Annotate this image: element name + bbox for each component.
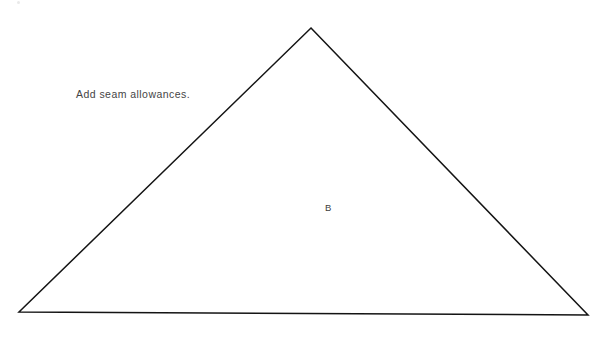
seam-allowance-instruction: Add seam allowances. [76, 88, 190, 100]
pattern-drawing [0, 0, 610, 338]
triangle-outline [19, 28, 588, 315]
pattern-piece-label: B [325, 202, 332, 213]
pattern-canvas: Add seam allowances. B [0, 0, 610, 338]
